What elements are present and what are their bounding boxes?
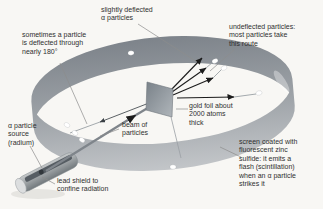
label-lead-shield: lead shield to confine radiation [57, 177, 108, 194]
scintillation-flash [63, 121, 71, 128]
pointer-line [30, 146, 42, 168]
label-fluorescent-screen: screen coated with fluorescent zinc sulf… [239, 138, 297, 188]
label-deflected-nearly-180: sometimes a particle is deflected throug… [22, 31, 86, 56]
rutherford-experiment-diagram: slightly deflected α particles sometimes… [0, 0, 323, 209]
label-slightly-deflected-particles: slightly deflected α particles [101, 6, 153, 23]
label-gold-foil: gold foil about 2000 atoms thick [189, 102, 233, 127]
label-beam-of-particles: beam of particles [122, 121, 148, 138]
pointer-line [100, 129, 119, 136]
particle-arrow [177, 97, 234, 98]
scintillation-flash [170, 165, 177, 170]
label-undeflected-particles: undeflected particles: most particles ta… [229, 23, 295, 48]
scintillation-flash [220, 65, 227, 72]
particle-path-continuation [213, 69, 222, 78]
scintillation-flash [255, 90, 262, 96]
particle-path-continuation [234, 94, 256, 97]
label-alpha-source: α particle source (radium) [8, 122, 37, 147]
gold-foil [146, 82, 173, 117]
